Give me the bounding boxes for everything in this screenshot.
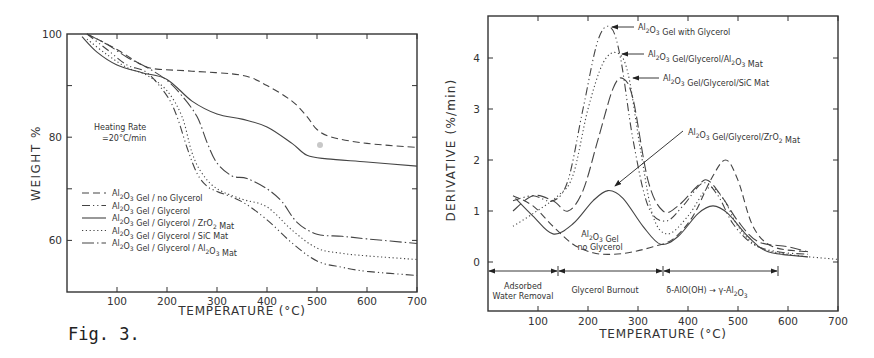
svg-text:700: 700 (407, 295, 427, 307)
svg-text:3: 3 (473, 103, 480, 115)
derivative-regions: AdsorbedWater RemovalGlycerol Burnoutδ-A… (489, 266, 778, 301)
svg-text:4: 4 (473, 52, 480, 64)
svg-text:200: 200 (157, 295, 177, 307)
svg-text:Al2O3 Gel/Glycerol/Al2O3 Mat: Al2O3 Gel/Glycerol/Al2O3 Mat (648, 50, 763, 69)
weight-y-label: WEIGHT % (29, 125, 43, 201)
svg-text:100: 100 (42, 28, 62, 40)
svg-text:0: 0 (473, 256, 480, 268)
derivative-series-line (516, 191, 809, 257)
svg-text:700: 700 (828, 315, 848, 327)
svg-text:2: 2 (473, 154, 480, 166)
derivative-x-label: TEMPERATURE (°C) (598, 327, 727, 341)
svg-text:Al2O3 Gel / Glycerol / ZrO2 Ma: Al2O3 Gel / Glycerol / ZrO2 Mat (112, 214, 234, 231)
svg-text:600: 600 (357, 295, 377, 307)
heating-rate-annotation: Heating Rate =20°C/min (94, 123, 146, 143)
svg-text:Al2O3 Gel / no Glycerol: Al2O3 Gel / no Glycerol (112, 189, 203, 203)
svg-text:Glycerol Burnout: Glycerol Burnout (571, 286, 638, 295)
derivative-annotations: Al2O3 Gel with GlycerolAl2O3 Gel/Glycero… (577, 23, 800, 252)
weight-chart: 1002003004005006007006080100 WEIGHT % TE… (29, 28, 427, 318)
weight-chart-ticks: 1002003004005006007006080100 (42, 28, 427, 307)
heating-rate-label: Heating Rate (94, 123, 146, 132)
derivative-y-label: DERIVATIVE (%/min) (444, 79, 458, 222)
svg-text:200: 200 (578, 315, 598, 327)
svg-text:Adsorbed: Adsorbed (504, 282, 542, 291)
svg-text:100: 100 (107, 295, 127, 307)
svg-text:60: 60 (49, 234, 62, 246)
svg-text:Al2O3 Gel / Glycerol / SiC Mat: Al2O3 Gel / Glycerol / SiC Mat (112, 227, 228, 241)
stain-dot (317, 142, 323, 148)
figure-caption: Fig. 3. (68, 324, 140, 344)
svg-text:Al2O3 Gel/Glycerol/ZrO2 Mat: Al2O3 Gel/Glycerol/ZrO2 Mat (688, 128, 800, 145)
heating-rate-value: =20°C/min (102, 134, 146, 143)
svg-text:400: 400 (678, 315, 698, 327)
svg-text:Al2O3 Gel: Al2O3 Gel (581, 230, 619, 244)
svg-text:1: 1 (473, 205, 480, 217)
svg-text:500: 500 (728, 315, 748, 327)
svg-text:500: 500 (307, 295, 327, 307)
derivative-chart-ticks: 10020030040050060070001234 (473, 16, 848, 327)
svg-text:80: 80 (49, 131, 62, 143)
weight-series-line (82, 37, 417, 167)
svg-text:Al2O3 Gel / Glycerol: Al2O3 Gel / Glycerol (112, 202, 190, 216)
svg-text:δ-AlO(OH) → γ-Al2O3: δ-AlO(OH) → γ-Al2O3 (666, 286, 748, 299)
svg-text:600: 600 (778, 315, 798, 327)
figure-canvas: 1002003004005006007006080100 WEIGHT % TE… (0, 0, 874, 358)
derivative-series-line (513, 78, 808, 252)
svg-text:Al2O3 Gel/Glycerol/SiC Mat: Al2O3 Gel/Glycerol/SiC Mat (663, 74, 769, 88)
derivative-chart: 10020030040050060070001234 DERIVATIVE (%… (444, 16, 848, 341)
svg-text:Al2O3 Gel / Glycerol / Al2O3 M: Al2O3 Gel / Glycerol / Al2O3 Mat (112, 239, 237, 258)
weight-chart-legend: Al2O3 Gel / no GlycerolAl2O3 Gel / Glyce… (82, 189, 237, 258)
svg-text:300: 300 (628, 315, 648, 327)
svg-text:Al2O3 Gel with Glycerol: Al2O3 Gel with Glycerol (638, 23, 730, 37)
weight-x-label: TEMPERATURE (°C) (177, 304, 306, 318)
svg-text:Water Removal: Water Removal (493, 292, 554, 301)
svg-text:100: 100 (528, 315, 548, 327)
weight-chart-frame (67, 34, 417, 292)
svg-text:no Glycerol: no Glycerol (577, 243, 622, 252)
derivative-series-line (513, 160, 808, 254)
